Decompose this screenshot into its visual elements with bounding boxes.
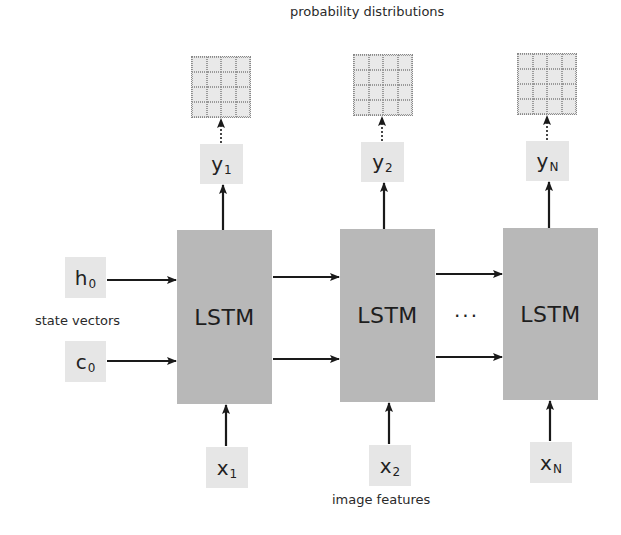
initial-state-c0: c0 [65,341,106,382]
lstm-cell-n: LSTM [503,228,598,400]
output-yN-base: y [537,149,549,173]
output-y2-base: y [372,150,384,174]
output-y1-base: y [211,152,223,176]
lstm-cell-2-label: LSTM [357,303,418,328]
lstm-cell-1-label: LSTM [194,305,255,330]
output-y2: y2 [361,142,404,182]
input-x1-base: x [217,456,229,480]
output-yN-sub: N [549,160,558,174]
c0-sub: 0 [88,361,96,375]
distribution-grid-1 [191,56,251,118]
lstm-cell-2: LSTM [340,229,435,402]
lstm-cell-1: LSTM [177,230,272,404]
lstm-cell-n-label: LSTM [520,302,581,327]
input-x2-sub: 2 [393,465,401,479]
output-y2-sub: 2 [385,161,393,175]
output-y1: y1 [200,144,243,184]
input-x2-base: x [380,454,392,478]
input-x1: x1 [206,447,248,488]
input-xN-sub: N [553,462,562,476]
state-vectors-label: state vectors [35,313,120,328]
h0-base: h [75,266,88,290]
ellipsis: ··· [454,304,479,328]
h0-sub: 0 [89,277,97,291]
distribution-grid-2 [353,54,413,116]
output-y1-sub: 1 [224,163,232,177]
input-x1-sub: 1 [230,467,238,481]
c0-base: c [76,350,87,374]
input-xN: xN [530,442,572,483]
input-x2: x2 [369,445,411,486]
initial-state-h0: h0 [65,257,106,298]
distribution-grid-n [517,53,577,115]
probability-distributions-label: probability distributions [290,4,444,19]
image-features-label: image features [332,492,430,507]
output-yN: yN [526,141,569,181]
input-xN-base: x [540,451,552,475]
